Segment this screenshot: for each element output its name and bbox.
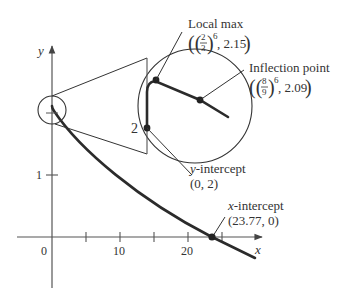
svg-text:y-intercept: y-intercept	[188, 161, 246, 176]
inflection-title: Inflection point	[249, 60, 330, 75]
graph-diagram: 0 10 20 1 x y 2 Local max (( 2	[0, 0, 353, 304]
local-max-frac-den: 3	[201, 43, 206, 53]
x-axis-label: x	[254, 242, 261, 257]
x-tick-label-20: 20	[181, 244, 193, 258]
inflection-frac-num: 8	[262, 76, 267, 86]
connector-line-top	[52, 58, 147, 96]
local-max-y: , 2.15	[217, 36, 246, 51]
annotation-inflection: Inflection point (( 8 9 ) 6 , 2.09 )	[249, 60, 330, 99]
svg-text:x-intercept: x-intercept	[227, 198, 284, 213]
local-max-frac-num: 2	[201, 32, 206, 42]
origin-label: 0	[41, 244, 47, 258]
annotation-local-max: Local max (( 2 3 ) 6 , 2.15 )	[188, 16, 251, 55]
y-axis-label: y	[36, 43, 44, 58]
x-intercept-dot	[208, 233, 215, 240]
magnifier-y-label: 2	[131, 121, 138, 136]
magnifier-circle: 2	[131, 49, 252, 163]
local-max-paren-open: ((	[188, 32, 202, 55]
local-max-paren-close: )	[244, 32, 251, 55]
annotation-y-intercept: y-intercept (0, 2)	[188, 161, 246, 191]
inflection-y: , 2.09	[278, 80, 307, 95]
y-intercept-coords: (0, 2)	[190, 176, 218, 191]
x-intercept-title: -intercept	[234, 198, 284, 213]
x-tick-label-10: 10	[113, 244, 125, 258]
y-intercept-title: -intercept	[196, 161, 246, 176]
y-tick-label-1: 1	[36, 168, 42, 182]
inflection-paren-open: ((	[249, 76, 263, 99]
x-intercept-coords: (23.77, 0)	[228, 213, 279, 228]
inflection-frac-den: 9	[262, 87, 267, 97]
inflection-paren-close: )	[305, 76, 312, 99]
local-max-title: Local max	[188, 16, 244, 31]
annotation-x-intercept: x-intercept (23.77, 0)	[227, 198, 284, 228]
